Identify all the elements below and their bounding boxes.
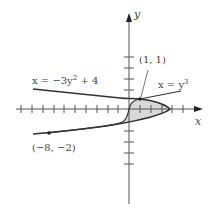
x-axis-label: x [195, 115, 202, 128]
point-neg8-neg2 [47, 131, 51, 135]
point-label-1-1: (1, 1) [139, 54, 166, 65]
point-label-neg8-neg2: (−8, −2) [32, 142, 76, 153]
x-axis-arrow-icon [194, 106, 203, 112]
leader-line [141, 70, 148, 97]
shaded-region [124, 99, 170, 123]
cubic-equation: x = y3 [158, 78, 189, 90]
parabola-equation: x = −3y2 + 4 [32, 74, 98, 86]
area-diagram: y x (1, 1) (−8, −2) x = −3y2 + 4 x = y3 [0, 0, 213, 208]
point-1-1 [138, 97, 142, 101]
y-axis-label: y [133, 8, 141, 21]
y-axis-arrow-icon [126, 13, 132, 22]
